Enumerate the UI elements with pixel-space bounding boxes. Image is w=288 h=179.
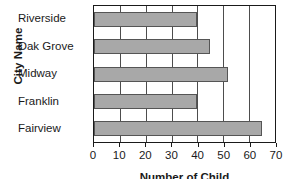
x-axis-tick [119,143,120,147]
y-axis-tick-label: Fairview [18,115,90,143]
bar-row [94,115,275,142]
x-axis-tick [250,143,251,147]
bar-row [94,33,275,60]
plot-area [93,5,276,143]
bar-row [94,60,275,87]
y-axis-tick-label: Midway [18,60,90,88]
x-axis-tick [276,143,277,147]
x-axis-title: Number of Child [93,171,276,179]
x-axis-tick-label: 60 [243,148,256,162]
x-axis-tick-label: 40 [191,148,204,162]
y-axis-tick-label: Franklin [18,88,90,116]
y-axis-tick-labels: RiversideOak GroveMidwayFranklinFairview [18,5,90,143]
bar-chart: City Name RiversideOak GroveMidwayFrankl… [0,0,288,179]
y-axis-tick-label: Riverside [18,5,90,33]
bar-row [94,88,275,115]
x-axis-tick [224,143,225,147]
x-axis-tick [145,143,146,147]
x-axis-tick-label: 50 [217,148,230,162]
x-axis-tick-label: 10 [113,148,126,162]
x-axis-tick-label: 0 [90,148,96,162]
x-axis-tick [171,143,172,147]
bar [94,39,210,54]
x-axis-tick-labels: 010203040506070 [93,148,276,162]
x-axis-tick-label: 30 [165,148,178,162]
bar [94,121,262,136]
y-axis-tick-label: Oak Grove [18,33,90,61]
bar [94,12,197,27]
x-axis-tick-label: 20 [139,148,152,162]
bar-series [94,6,275,142]
bar [94,67,228,82]
bar [94,94,197,109]
x-axis-tick-label: 70 [270,148,283,162]
x-axis-tick [198,143,199,147]
x-axis-tick [93,143,94,147]
bar-row [94,6,275,33]
